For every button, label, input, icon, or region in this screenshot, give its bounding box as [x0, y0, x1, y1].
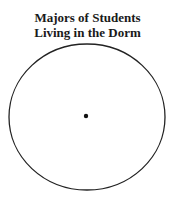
pie-center-point	[84, 114, 88, 118]
pie-chart	[0, 0, 175, 209]
